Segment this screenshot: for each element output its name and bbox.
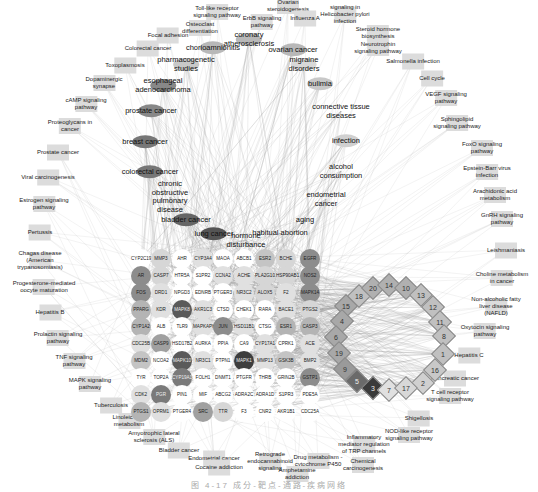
pathway-label: Influenza A: [290, 15, 320, 21]
disease-label: breast cancer: [122, 137, 167, 146]
pathway-node: FoxO signaling pathway: [462, 141, 502, 155]
disease-node: prostate cancer: [125, 107, 177, 116]
disease-label: alcohol consumption: [320, 162, 363, 180]
pathway-node: Steroid hormone biosynthesis: [356, 26, 400, 40]
pathway-node: Choline metabolism in cancer: [476, 271, 529, 285]
pathway-label: Salmonella infection: [386, 58, 440, 64]
pathway-node: Oxytocin signaling pathway: [461, 324, 510, 338]
pathway-node: signaling in Helicobacter pylori infecti…: [320, 4, 369, 25]
pathway-label: ErbB signaling pathway: [243, 15, 282, 28]
pathway-label: Toll-like receptor signaling pathway: [193, 5, 241, 18]
pathway-node: T cell receptor signaling pathway: [426, 389, 474, 403]
pathway-label: Toxoplasmosis: [105, 62, 144, 68]
disease-node: ovarian cancer: [268, 46, 317, 55]
pathway-node: Dopaminergic synapse: [85, 76, 122, 90]
compound-id-label: 1: [441, 351, 445, 358]
pathway-node: Colorectal cancer: [125, 45, 172, 52]
pathway-label: Prostate cancer: [37, 149, 79, 155]
pathway-node: ErbB signaling pathway: [243, 15, 282, 29]
compound-id-label: 20: [369, 285, 377, 292]
disease-node: coronary atherosclerosis: [224, 31, 274, 48]
target-gene-node: AKR1B1: [276, 402, 296, 422]
pathway-label: GnRH signaling pathway: [481, 212, 523, 225]
compound-id-label: 14: [385, 282, 393, 289]
disease-label: bulimia: [308, 79, 332, 88]
pathway-label: T cell receptor signaling pathway: [426, 389, 474, 402]
pathway-node: Neurotrophin signaling pathway: [354, 41, 402, 55]
disease-label: prostate cancer: [125, 106, 177, 115]
pathway-node: Salmonella infection: [386, 58, 440, 65]
disease-label: chronic obstructive pulmonary disease: [152, 179, 188, 214]
compound-id-label: 4: [340, 318, 344, 325]
compound-id-label: 19: [335, 350, 343, 357]
target-gene-node: PTGER4: [172, 402, 192, 422]
compound-id-label: 2: [421, 380, 425, 387]
pathway-node: Chagas disease (American trypanosomiasis…: [17, 250, 62, 271]
disease-label: pharmacogenetic studies: [157, 55, 215, 73]
disease-node: pharmacogenetic studies: [157, 56, 215, 73]
pathway-label: Non-alcoholic fatty liver disease (NAFLD…: [471, 296, 520, 316]
pathway-node: NOD-like receptor signaling pathway: [385, 428, 433, 442]
pathway-node: GnRH signaling pathway: [481, 212, 523, 226]
pathway-node: Tuberculosis: [94, 402, 128, 409]
disease-label: bladder cancer: [161, 215, 211, 224]
compound-id-label: 5: [355, 378, 359, 385]
target-gene-node: CDC25A: [300, 402, 320, 422]
pathway-label: Leishmaniasis: [487, 247, 525, 253]
pathway-node: Prolactin signaling pathway: [34, 331, 83, 345]
disease-label: habitual abortion: [252, 228, 307, 237]
pathway-label: FoxO signaling pathway: [462, 141, 502, 154]
compound-id-label: 17: [402, 385, 410, 392]
disease-node: bladder cancer: [161, 216, 211, 225]
pathway-label: Hepatitis B: [35, 309, 64, 315]
compound-id-label: 16: [431, 367, 439, 374]
pathway-label: Bladder cancer: [159, 447, 199, 453]
compound-id-label: 12: [429, 304, 437, 311]
pathway-node: Epstein-Barr virus infection: [463, 165, 511, 179]
disease-label: colorectal cancer: [122, 167, 179, 176]
disease-node: bulimia: [308, 80, 332, 89]
target-gene-node: SRC: [193, 402, 213, 422]
pathway-label: Choline metabolism in cancer: [476, 271, 529, 284]
compound-id-label: 7: [387, 387, 391, 394]
pathway-node: Chemical carcinogenesis: [343, 458, 383, 472]
pathway-label: Colorectal cancer: [125, 45, 172, 51]
disease-node: chronic obstructive pulmonary disease: [152, 180, 188, 214]
pathway-label: Focal adhesion: [148, 32, 189, 38]
disease-node: connective tissue diseases: [312, 103, 370, 120]
pathway-node: Cocaine addiction: [195, 464, 243, 471]
pathway-node: Hepatitis B: [35, 309, 64, 316]
pathway-node: Prostate cancer: [37, 149, 79, 156]
figure-caption: 图 4-17 成分-靶点-通路-疾病网络: [191, 479, 347, 490]
disease-node: breast cancer: [122, 138, 167, 147]
disease-label: coronary atherosclerosis: [224, 30, 274, 48]
pathway-label: Arachidonic acid metabolism: [473, 188, 517, 201]
compound-id-label: 3: [371, 385, 375, 392]
disease-node: infection: [332, 137, 360, 146]
disease-node: colorectal cancer: [122, 168, 179, 177]
pathway-label: MAPK signaling pathway: [69, 377, 111, 390]
pathway-node: Toxoplasmosis: [105, 62, 144, 69]
compound-id-label: 6: [334, 334, 338, 341]
pathway-label: Estrogen signaling pathway: [19, 197, 68, 210]
pathway-label: Tuberculosis: [94, 402, 128, 408]
pathway-label: Progesterone-mediated oocyte maturation: [13, 280, 76, 293]
pathway-label: Prolactin signaling pathway: [34, 331, 83, 344]
pathway-label: Dopaminergic synapse: [85, 76, 122, 89]
pathway-node: Toll-like receptor signaling pathway: [193, 5, 241, 19]
target-gene-node: PTGS1: [131, 402, 151, 422]
disease-node: aging: [296, 216, 314, 225]
pathway-node: TNF signaling pathway: [55, 354, 92, 368]
pathway-label: Neurotrophin signaling pathway: [354, 41, 402, 54]
pathway-node: Hepatitis C: [454, 352, 483, 359]
disease-label: connective tissue diseases: [312, 102, 370, 120]
pathway-label: Oxytocin signaling pathway: [461, 324, 510, 337]
pathway-label: signaling in Helicobacter pylori infecti…: [320, 4, 369, 24]
pathway-node: VEGF signaling pathway: [425, 91, 467, 105]
pathway-node: cAMP signaling pathway: [65, 97, 106, 111]
pathway-node: Inflammatory mediator regulation of TRP …: [338, 434, 389, 455]
pathway-label: Inflammatory mediator regulation of TRP …: [338, 434, 389, 454]
disease-label: infection: [332, 136, 360, 145]
pathway-node: Shigellosis: [405, 415, 434, 422]
pathway-node: Estrogen signaling pathway: [19, 197, 68, 211]
